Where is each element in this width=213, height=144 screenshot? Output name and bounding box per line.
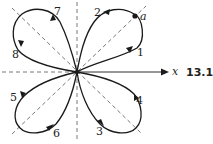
arrow-label-1: 1 [137,46,144,59]
arrow-label-5: 5 [10,91,17,104]
arrow-label-2: 2 [94,6,101,19]
point-a-marker [132,13,137,18]
diagonal-dashed-2 [12,6,146,134]
figure-number: 13.10 [186,66,213,79]
origin-point [75,70,79,74]
arrow-label-3: 3 [96,125,103,138]
rose-curve-diagram: a 1 2 3 4 5 6 7 8 x 13.10 [0,0,213,144]
arrow-8-icon [18,40,24,47]
point-a-label: a [140,10,147,23]
arrow-1-icon [126,46,133,53]
petal-lower-left [15,72,77,133]
arrow-label-4: 4 [136,94,143,107]
x-axis-label: x [172,65,179,78]
arrow-label-7: 7 [54,5,61,18]
x-axis-arrowhead-icon [161,69,169,76]
arrow-label-8: 8 [12,48,19,61]
arrow-label-6: 6 [53,127,60,140]
arrow-2-icon [103,9,110,15]
